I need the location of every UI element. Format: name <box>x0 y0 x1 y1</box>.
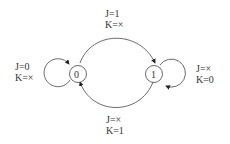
state-diagram: 0 1 J=0 K=× J=1 K=× J=× K=0 J=× K=1 <box>0 0 230 144</box>
self-loop-1-label: J=× K=0 <box>196 63 214 85</box>
arc-1-to-0-label: J=× K=1 <box>106 114 124 136</box>
condition-j: J=0 <box>15 61 34 72</box>
condition-j: J=1 <box>105 8 124 19</box>
self-loop-1 <box>160 59 185 87</box>
arc-0-to-1 <box>80 38 155 63</box>
state-1-label: 1 <box>151 69 156 80</box>
self-loop-0-label: J=0 K=× <box>15 61 34 83</box>
arc-0-to-1-label: J=1 K=× <box>105 8 124 30</box>
condition-k: K=× <box>15 72 34 83</box>
arc-1-to-0 <box>80 82 153 108</box>
condition-k: K=0 <box>196 74 214 85</box>
self-loop-0 <box>44 59 70 87</box>
condition-k: K=1 <box>106 125 124 136</box>
state-0-label: 0 <box>74 69 79 80</box>
condition-j: J=× <box>106 114 124 125</box>
condition-j: J=× <box>196 63 214 74</box>
condition-k: K=× <box>105 19 124 30</box>
